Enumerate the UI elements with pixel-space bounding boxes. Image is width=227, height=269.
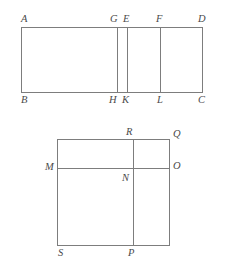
label-d: D	[198, 14, 206, 25]
label-k: K	[122, 95, 129, 106]
label-l: L	[157, 95, 163, 106]
label-h: H	[109, 95, 117, 106]
label-e: E	[123, 14, 129, 25]
geometry-canvas	[0, 0, 227, 269]
label-b: B	[21, 95, 27, 106]
bottom-square-group	[58, 140, 170, 246]
geometry-figure: A B G E F D H K L C R Q M O N S P	[0, 0, 227, 269]
label-c: C	[198, 95, 205, 106]
label-a: A	[21, 14, 27, 25]
square-outline	[58, 140, 170, 246]
label-o: O	[173, 161, 181, 172]
rectangle-abcd-outline	[22, 28, 203, 93]
label-r: R	[126, 127, 132, 138]
label-m: M	[45, 162, 54, 173]
top-rectangle-group	[22, 28, 203, 93]
label-q: Q	[173, 129, 181, 140]
label-f: F	[156, 14, 162, 25]
label-n: N	[122, 173, 129, 184]
label-s: S	[58, 248, 63, 259]
label-p: P	[128, 248, 134, 259]
label-g: G	[110, 14, 118, 25]
